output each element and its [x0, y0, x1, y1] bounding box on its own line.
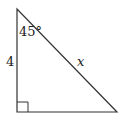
right-angle-marker: [17, 102, 28, 112]
vertical-side-label: 4: [6, 54, 14, 69]
triangle-diagram: 45° 4 x: [0, 0, 124, 135]
angle-label: 45°: [19, 24, 42, 39]
hypotenuse-label: x: [77, 54, 85, 69]
